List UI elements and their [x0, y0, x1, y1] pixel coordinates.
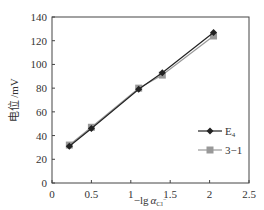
x-tick-label: 0.5	[85, 188, 99, 200]
y-tick-label: 40	[36, 130, 48, 142]
y-tick-label: 140	[31, 11, 48, 23]
x-tick-label: 2	[207, 188, 213, 200]
diamond-marker-icon	[207, 128, 214, 135]
y-tick-label: 0	[42, 177, 48, 189]
plot-frame	[52, 17, 249, 183]
y-tick-label: 80	[36, 82, 48, 94]
x-axis-title: −lgαCl−	[134, 194, 167, 208]
svg-text:E4: E4	[225, 125, 236, 139]
legend-item-e4: E4	[198, 125, 236, 139]
y-tick-label: 60	[36, 106, 48, 118]
y-axis: 020406080100120140	[31, 11, 56, 189]
x-tick-label: 2.5	[242, 188, 256, 200]
legend-item-3-1: 3−1	[198, 144, 242, 156]
legend: E4 3−1	[198, 125, 242, 156]
svg-text:3−1: 3−1	[225, 144, 242, 156]
y-tick-label: 120	[31, 35, 48, 47]
y-tick-label: 20	[36, 153, 48, 165]
y-axis-title: 电位/mV	[7, 78, 20, 122]
series-layer	[66, 29, 217, 150]
y-tick-label: 100	[31, 58, 48, 70]
series-e4	[66, 29, 217, 150]
chart-canvas: 020406080100120140 00.511.522.5 电位/mV −l…	[0, 0, 264, 210]
square-marker-icon	[207, 147, 214, 154]
x-tick-label: 1	[128, 188, 134, 200]
x-tick-label: 0	[49, 188, 55, 200]
